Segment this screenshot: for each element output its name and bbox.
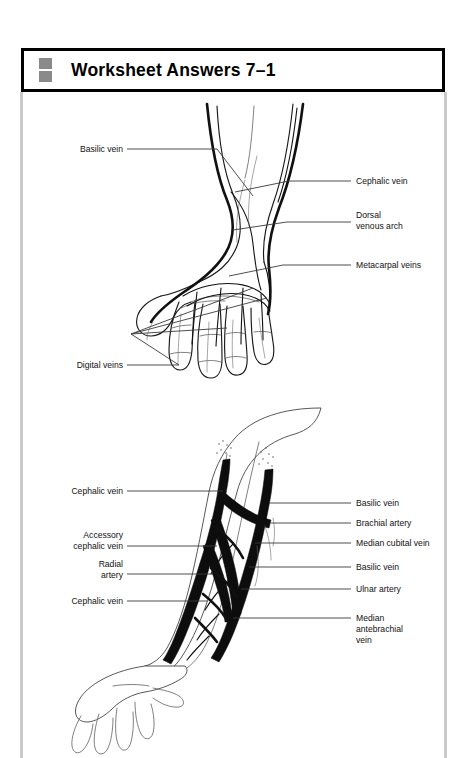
label-cephalic-vein: Cephalic vein: [356, 176, 408, 186]
page-title: Worksheet Answers 7–1: [71, 60, 276, 81]
label-median-antebrachial-vein-line1: Median: [356, 613, 384, 623]
figure-dorsal-hand-veins: Basilic vein Digital veins Cephalic vein…: [21, 96, 444, 396]
label-median-antebrachial-vein-line3: vein: [356, 635, 372, 645]
label-dorsal-venous-arch-line1: Dorsal: [356, 210, 381, 220]
label-basilic-vein: Basilic vein: [80, 144, 123, 154]
label-accessory-cephalic-vein-line1: Accessory: [83, 530, 123, 540]
label-cephalic-vein-upper: Cephalic vein: [71, 486, 123, 496]
label-radial-artery-line1: Radial: [99, 559, 123, 569]
two-stacked-squares-icon: [39, 58, 53, 82]
label-accessory-cephalic-vein-line2: cephalic vein: [73, 541, 123, 551]
label-ulnar-artery: Ulnar artery: [356, 584, 402, 594]
label-brachial-artery: Brachial artery: [356, 518, 412, 528]
label-digital-veins: Digital veins: [77, 360, 123, 370]
worksheet-page: Worksheet Answers 7–1: [0, 0, 468, 758]
label-dorsal-venous-arch-line2: venous arch: [356, 221, 403, 231]
label-median-cubital-vein: Median cubital vein: [356, 538, 430, 548]
label-basilic-vein-lower: Basilic vein: [356, 562, 399, 572]
figure-anterior-forearm-veins: Cephalic vein Accessory cephalic vein Ra…: [21, 396, 444, 756]
label-basilic-vein-upper: Basilic vein: [356, 498, 399, 508]
hand-figure-labels: Basilic vein Digital veins Cephalic vein…: [77, 144, 421, 370]
label-cephalic-vein-lower: Cephalic vein: [71, 596, 123, 606]
label-radial-artery-line2: artery: [101, 570, 124, 580]
label-metacarpal-veins: Metacarpal veins: [356, 260, 421, 270]
worksheet-header-bar: Worksheet Answers 7–1: [21, 48, 445, 92]
label-median-antebrachial-vein-line2: antebrachial: [356, 624, 403, 634]
page-rail-right: [444, 92, 447, 758]
